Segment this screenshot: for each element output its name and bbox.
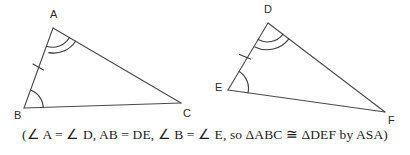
angle-mark-b <box>31 90 44 108</box>
segment-ef <box>228 90 385 112</box>
caption-text: (∠ A = ∠ D, AB = DE, ∠ B = ∠ E, so ΔABC … <box>22 127 388 142</box>
triangle-def: D E F <box>215 3 395 126</box>
vertex-label-a: A <box>50 8 58 20</box>
caption: (∠ A = ∠ D, AB = DE, ∠ B = ∠ E, so ΔABC … <box>0 125 410 143</box>
vertex-label-e: E <box>215 81 222 93</box>
angle-mark-e <box>239 72 248 93</box>
vertex-label-d: D <box>264 3 272 15</box>
segment-df <box>268 23 385 112</box>
segment-de <box>228 23 268 90</box>
vertex-label-b: B <box>14 109 21 121</box>
segment-bc <box>24 103 181 108</box>
triangle-abc: A B C <box>14 8 191 121</box>
angle-mark-a <box>46 38 75 54</box>
segment-ac <box>53 28 181 103</box>
vertex-label-c: C <box>183 107 191 119</box>
